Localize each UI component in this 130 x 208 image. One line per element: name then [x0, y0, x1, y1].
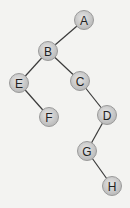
tree-node-b: B — [39, 42, 58, 61]
node-label: A — [80, 14, 88, 28]
tree-node-h: H — [103, 177, 122, 196]
node-label: D — [103, 109, 112, 123]
tree-node-a: A — [75, 11, 94, 30]
tree-node-g: G — [78, 142, 97, 161]
binary-tree-diagram: ABECFDGH — [0, 0, 130, 208]
tree-node-e: E — [10, 74, 29, 93]
node-label: F — [45, 111, 52, 125]
node-label: C — [76, 75, 85, 89]
edges-group — [19, 20, 112, 186]
node-label: H — [108, 180, 117, 194]
node-label: E — [15, 77, 23, 91]
node-label: G — [82, 145, 91, 159]
tree-node-f: F — [40, 108, 59, 127]
nodes-group: ABECFDGH — [10, 11, 122, 196]
node-label: B — [44, 45, 52, 59]
tree-node-c: C — [71, 72, 90, 91]
tree-node-d: D — [98, 106, 117, 125]
